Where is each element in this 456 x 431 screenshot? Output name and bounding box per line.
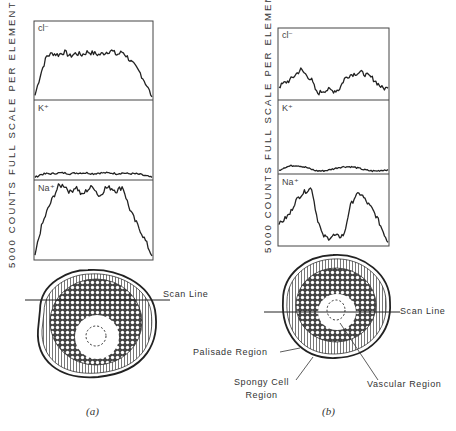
y-axis-label-b: 5000 COUNTS FULL SCALE PER ELEMENT [262, 0, 273, 253]
trace-cl-a [35, 50, 152, 97]
spongy-cell-label-line2: Region [246, 390, 278, 400]
panel-label-a: (a) [86, 405, 99, 417]
spongy-leader [296, 357, 313, 380]
trace-na-a [35, 184, 152, 256]
figure-canvas [0, 0, 456, 431]
scan-line-label-a: Scan Line [163, 289, 208, 299]
element-label-na-b: Na⁺ [282, 177, 299, 187]
leaf-cross-section-a [25, 270, 170, 377]
trace-cl-b [279, 68, 388, 95]
leaf-cross-section-b [264, 255, 400, 380]
panel-b-plot-frame [278, 28, 389, 246]
trace-na-b [279, 188, 388, 242]
spongy-cell-label: Spongy Cell Region [234, 376, 289, 402]
spongy-cell-label-line1: Spongy Cell [234, 377, 289, 387]
y-axis-label-a: 5000 COUNTS FULL SCALE PER ELEMENT [6, 0, 17, 268]
element-label-k-a: K⁺ [38, 103, 49, 113]
element-label-cl-b: cl⁻ [282, 30, 294, 40]
vascular-region-label: Vascular Region [367, 379, 441, 389]
panel-label-b: (b) [322, 405, 335, 417]
scan-line-label-b: Scan Line [400, 306, 445, 316]
trace-k-b [279, 165, 388, 171]
palisade-leader [280, 348, 300, 352]
element-label-k-b: K⁺ [282, 103, 293, 113]
panel-a-plot-frame [34, 21, 153, 260]
element-label-cl-a: cl⁻ [38, 23, 50, 33]
palisade-region-label: Palisade Region [193, 347, 268, 357]
element-label-na-a: Na⁺ [38, 183, 55, 193]
trace-k-a [35, 172, 152, 177]
